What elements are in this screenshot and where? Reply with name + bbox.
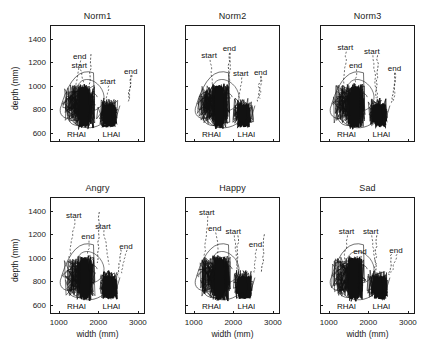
y-tick-mark [320,234,323,235]
figure-canvas: Norm1RHAILHAIendstartstartend60080010001… [0,0,422,350]
x-tick-mark [368,311,369,314]
annotation-start: start [339,226,355,235]
y-tick-mark [320,305,323,306]
x-tick-label: 2000 [359,318,377,327]
annotation-start: start [363,226,379,235]
panel-sad: SadRHAILHAIstartendstartend100020003000w… [0,0,422,350]
annotation-end: end [353,247,366,256]
trace-path [375,235,377,270]
trace-path [391,254,397,273]
x-tick-mark [408,311,409,314]
y-tick-mark [320,281,323,282]
trajectory-traces [321,198,415,314]
marker-label-lhai: LHAI [372,301,390,310]
x-tick-mark [329,311,330,314]
trace-path [372,277,382,294]
panel-title: Sad [320,183,415,193]
annotation-end: end [389,245,402,254]
x-axis-label: width (mm) [346,329,388,339]
y-tick-mark [320,211,323,212]
plot-area [320,197,415,314]
y-tick-mark [320,258,323,259]
trace-path [349,258,358,300]
marker-label-rhai: RHAI [337,301,356,310]
x-tick-label: 1000 [320,318,338,327]
x-tick-label: 3000 [399,318,417,327]
